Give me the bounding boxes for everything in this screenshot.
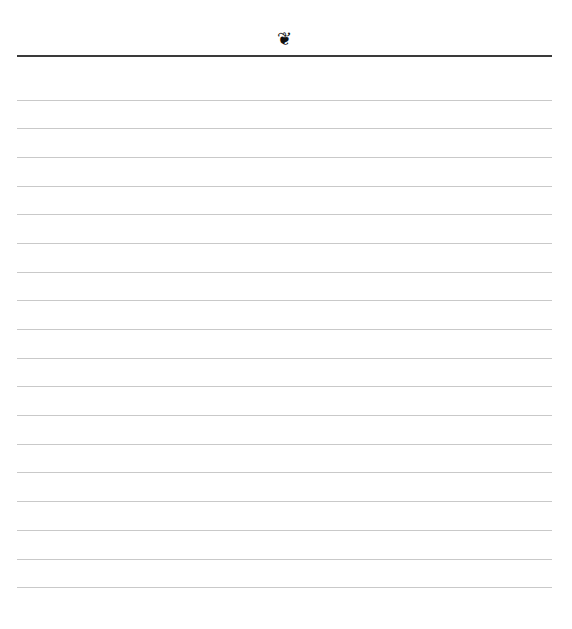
ruled-line-5 [17, 214, 552, 215]
ruled-line-6 [17, 243, 552, 244]
ruled-line-17 [17, 559, 552, 560]
ruled-lines [17, 0, 552, 629]
ruled-line-7 [17, 272, 552, 273]
ruled-line-15 [17, 501, 552, 502]
ruled-line-2 [17, 128, 552, 129]
ruled-line-8 [17, 300, 552, 301]
ruled-line-13 [17, 444, 552, 445]
ruled-line-12 [17, 415, 552, 416]
ruled-line-3 [17, 157, 552, 158]
ruled-line-16 [17, 530, 552, 531]
ruled-line-9 [17, 329, 552, 330]
ruled-line-18 [17, 587, 552, 588]
ruled-line-11 [17, 386, 552, 387]
ruled-line-14 [17, 472, 552, 473]
ruled-line-4 [17, 186, 552, 187]
ruled-line-10 [17, 358, 552, 359]
ruled-line-1 [17, 100, 552, 101]
